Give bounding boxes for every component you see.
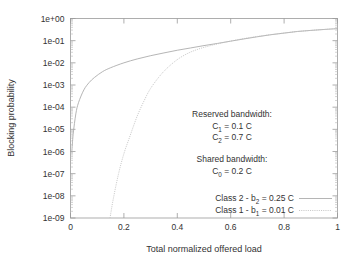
y-tick-label: 1e-03 [43,80,65,90]
x-axis-title: Total normalized offered load [146,244,261,254]
y-axis-title: Blocking probability [6,79,16,157]
y-tick-label: 1e-02 [43,58,65,68]
x-tick-label: 0.4 [171,222,183,232]
series-line-class2 [72,29,338,152]
x-axis-ticks: 00.20.40.60.81 [68,19,340,233]
y-tick-label: 1e-06 [43,147,65,157]
x-tick-label: 0.6 [225,222,237,232]
x-tick-label: 0.2 [118,222,130,232]
c0-annotation: C0 = 0.2 C [212,166,252,178]
x-tick-label: 1 [335,222,340,232]
chart-figure: 1e+001e-011e-021e-031e-041e-051e-061e-07… [0,0,352,262]
legend-label-class1: Class 1 - b1 = 0.01 C [215,205,294,217]
y-axis-ticks: 1e+001e-011e-021e-031e-041e-051e-061e-07… [41,14,338,224]
shared-bandwidth-heading: Shared bandwidth: [197,154,268,164]
annotation-shared-bandwidth: Shared bandwidth: C0 = 0.2 C [197,154,268,178]
legend-label-class2: Class 2 - b2 = 0.25 C [215,193,294,205]
x-tick-label: 0.8 [278,222,290,232]
y-tick-label: 1e-07 [43,169,65,179]
reserved-bandwidth-heading: Reserved bandwidth: [192,109,272,119]
y-tick-label: 1e-08 [43,191,65,201]
y-tick-label: 1e-04 [43,102,65,112]
x-tick-label: 0 [68,222,73,232]
y-tick-label: 1e-01 [43,36,65,46]
plot-canvas: 1e+001e-011e-021e-031e-041e-051e-061e-07… [0,0,352,262]
c1-annotation: C1 = 0.1 C [212,121,252,133]
annotation-reserved-bandwidth: Reserved bandwidth: C1 = 0.1 C C2 = 0.7 … [192,109,272,144]
c2-annotation: C2 = 0.7 C [212,132,252,144]
y-tick-label: 1e+00 [41,14,65,24]
chart-legend: Class 2 - b2 = 0.25 C Class 1 - b1 = 0.0… [215,193,332,217]
y-tick-label: 1e-09 [43,213,65,223]
y-tick-label: 1e-05 [43,124,65,134]
